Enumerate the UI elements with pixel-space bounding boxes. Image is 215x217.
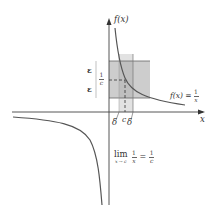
epsilon-label-upper: ε: [87, 66, 92, 74]
limit-lhs-denominator: x: [132, 158, 135, 164]
function-label-fraction: 1 x: [194, 89, 199, 103]
limit-lhs-fraction: 1 x: [132, 150, 137, 164]
function-label-lhs: f(x) =: [170, 92, 192, 100]
limit-rhs-denominator: c: [150, 158, 153, 164]
one-over-c-denominator: c: [100, 80, 103, 86]
limit-lhs-numerator: 1: [132, 150, 136, 156]
function-label-denominator: x: [194, 97, 197, 103]
limit-operator: lim x → c: [114, 150, 128, 164]
y-axis-arrow-icon: [107, 18, 112, 25]
epsilon-label-lower: ε: [87, 85, 92, 93]
function-label: f(x) = 1 x: [170, 89, 199, 103]
limit-rhs-numerator: 1: [150, 150, 154, 156]
limit-rhs-fraction: 1 c: [149, 150, 154, 164]
delta-label-left: δ: [112, 118, 117, 127]
curve-left-branch: [13, 117, 102, 205]
function-label-numerator: 1: [194, 89, 198, 95]
one-over-c-numerator: 1: [100, 72, 104, 78]
equals-sign: =: [140, 152, 147, 161]
limit-expression: lim x → c 1 x = 1 c: [114, 150, 154, 164]
lim-text: lim: [114, 150, 128, 159]
x-axis-label: x: [200, 115, 205, 124]
y-axis-label: f(x): [114, 15, 129, 24]
lim-subscript: x → c: [115, 160, 127, 165]
one-over-c-label: 1 c: [99, 72, 104, 86]
c-label: c: [122, 116, 126, 124]
epsilon-delta-figure: [0, 0, 215, 217]
delta-label-right: δ: [127, 118, 132, 127]
